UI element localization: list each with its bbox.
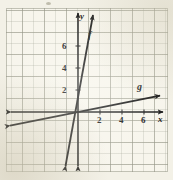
- x-axis-label: x: [158, 115, 163, 124]
- curve-label-g: g: [137, 82, 142, 92]
- y-axis-label: y: [80, 12, 84, 21]
- x-tick-label-2: 2: [97, 116, 102, 125]
- graph-overlay: [0, 0, 173, 180]
- curve-label-f: f: [88, 30, 91, 40]
- y-tick-label-4: 4: [62, 64, 67, 73]
- paper-speck: [46, 2, 51, 5]
- graph-figure: 6 4 2 2 4 6 x y f g: [0, 0, 173, 180]
- x-tick-label-6: 6: [141, 116, 146, 125]
- y-tick-label-2: 2: [62, 86, 67, 95]
- y-tick-label-6: 6: [62, 42, 67, 51]
- curve-g: [10, 96, 160, 126]
- x-tick-label-4: 4: [119, 116, 124, 125]
